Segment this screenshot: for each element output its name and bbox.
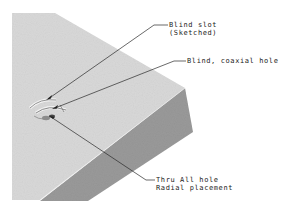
callout-line: Thru All hole xyxy=(156,176,233,184)
callout-line: (Sketched) xyxy=(169,29,217,37)
callout-line: Blind slot xyxy=(169,21,217,29)
callout-thru-all-hole: Thru All hole Radial placement xyxy=(156,176,233,192)
isometric-block-diagram xyxy=(0,0,300,207)
callout-line: Radial placement xyxy=(156,184,233,192)
callout-line: Blind, coaxial hole xyxy=(187,57,278,65)
thru-hole-feature xyxy=(42,116,50,120)
callout-blind-slot: Blind slot (Sketched) xyxy=(169,21,217,37)
callout-coaxial-hole: Blind, coaxial hole xyxy=(187,57,278,65)
